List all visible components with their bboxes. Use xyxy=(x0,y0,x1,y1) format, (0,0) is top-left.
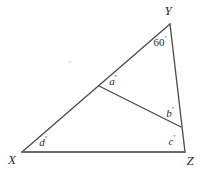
angle-label-b: bº xyxy=(166,107,174,119)
scan-artifact-speck xyxy=(69,61,72,64)
vertex-label-z: Z xyxy=(186,154,193,167)
angle-value-60: 60 xyxy=(153,36,164,48)
triangle-diagram-canvas xyxy=(0,0,207,174)
vertex-label-y: Y xyxy=(164,4,171,17)
angle-label-y-60: 60º xyxy=(153,36,166,48)
degree-symbol: º xyxy=(172,106,174,114)
segment-x-y xyxy=(22,24,170,152)
degree-symbol: º xyxy=(164,35,166,43)
angle-label-a: aº xyxy=(109,75,117,87)
degree-symbol: º xyxy=(115,74,117,82)
angle-label-c: cº xyxy=(168,135,175,147)
segment-y-z xyxy=(170,24,185,152)
geometry-figure: Y X Z 60º aº bº cº dº xyxy=(0,0,207,174)
angle-label-d: dº xyxy=(39,136,47,148)
degree-symbol: º xyxy=(173,134,175,142)
degree-symbol: º xyxy=(45,135,47,143)
vertex-label-x: X xyxy=(8,153,16,166)
